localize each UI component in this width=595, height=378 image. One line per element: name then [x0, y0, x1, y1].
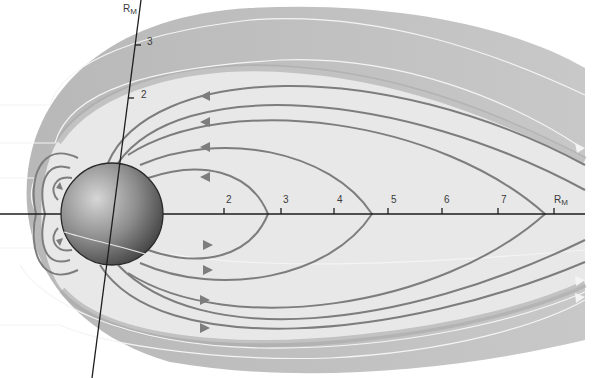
- magnetosphere-diagram: [0, 0, 595, 378]
- planet-sphere: [61, 163, 163, 265]
